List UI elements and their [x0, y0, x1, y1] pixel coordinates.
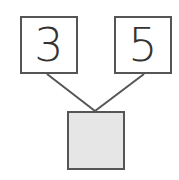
connector-right: [95, 74, 144, 111]
part-value-right: 5: [128, 18, 157, 72]
part-box-left: 3: [20, 16, 78, 74]
part-box-right: 5: [114, 16, 172, 74]
part-value-left: 3: [34, 18, 63, 72]
whole-box-answer[interactable]: [67, 111, 125, 170]
connector-left: [47, 74, 95, 111]
